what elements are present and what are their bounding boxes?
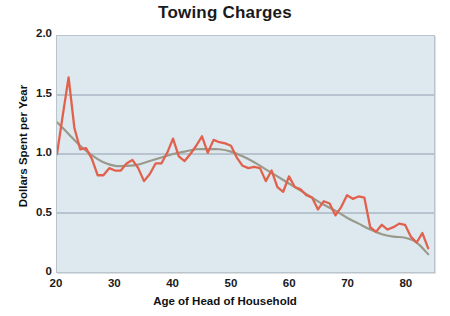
x-axis-tick-label: 30 <box>94 277 134 289</box>
y-axis-tick-label: 2.0 <box>2 27 52 39</box>
plot-svg <box>57 36 434 272</box>
x-axis-title: Age of Head of Household <box>0 295 450 307</box>
y-axis-title: Dollars Spent per Year <box>17 51 29 241</box>
x-axis-tick-label: 80 <box>386 277 426 289</box>
x-axis-tick-label: 70 <box>328 277 368 289</box>
gridlines <box>57 36 434 213</box>
chart-container: Towing Charges 00.51.01.52.0 Dollars Spe… <box>0 0 450 316</box>
x-axis-tick-label: 20 <box>36 277 76 289</box>
plot-area <box>56 35 435 273</box>
x-axis-tick-label: 50 <box>211 277 251 289</box>
data-line-path <box>57 77 428 248</box>
x-axis-tick-label: 60 <box>269 277 309 289</box>
y-axis-tick-label: 0 <box>2 265 52 277</box>
x-axis-tick-label: 40 <box>153 277 193 289</box>
trend-line-path <box>57 122 428 254</box>
chart-title: Towing Charges <box>0 3 450 23</box>
